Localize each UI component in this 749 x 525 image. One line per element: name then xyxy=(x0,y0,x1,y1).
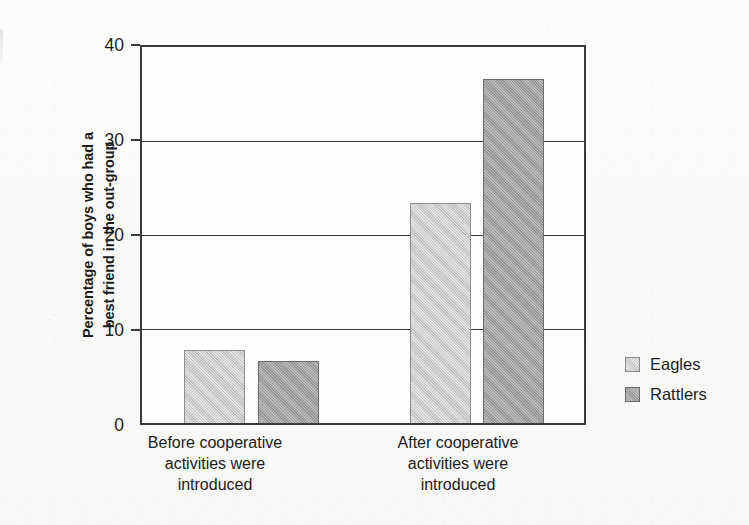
legend-label-rattlers: Rattlers xyxy=(650,385,707,404)
y-tick-mark-30 xyxy=(131,139,140,141)
legend-swatch-rattlers-icon xyxy=(625,387,640,402)
x-axis-label-group-1-line-1: Before cooperative xyxy=(95,432,335,453)
legend-label-eagles: Eagles xyxy=(650,355,700,374)
y-tick-label-40: 40 xyxy=(105,35,124,56)
y-tick-label-30: 30 xyxy=(105,130,124,151)
y-tick-mark-10 xyxy=(131,329,140,331)
y-axis-ticks: 40 30 20 10 0 xyxy=(0,45,140,425)
legend-item-eagles: Eagles xyxy=(625,355,707,374)
x-axis-label-group-2: After cooperative activities were introd… xyxy=(338,432,578,495)
chart-legend: Eagles Rattlers xyxy=(625,355,707,404)
y-tick-mark-20 xyxy=(131,234,140,236)
x-axis-label-group-2-line-1: After cooperative xyxy=(338,432,578,453)
y-tick-label-20: 20 xyxy=(105,225,124,246)
bar-rattlers-after xyxy=(483,79,544,423)
legend-swatch-eagles-icon xyxy=(625,357,640,372)
x-axis-label-group-1-line-2: activities were xyxy=(95,453,335,474)
legend-item-rattlers: Rattlers xyxy=(625,385,707,404)
bar-eagles-before xyxy=(184,350,245,423)
y-tick-label-10: 10 xyxy=(105,320,124,341)
x-axis-label-group-2-line-3: introduced xyxy=(338,474,578,495)
bar-rattlers-before xyxy=(258,361,319,423)
y-tick-mark-40 xyxy=(131,44,140,46)
x-axis-label-group-1-line-3: introduced xyxy=(95,474,335,495)
bar-eagles-after xyxy=(410,203,471,423)
bar-chart-figure: Percentage of boys who had a best friend… xyxy=(0,0,749,525)
plot-area xyxy=(140,45,586,425)
x-axis-label-group-1: Before cooperative activities were intro… xyxy=(95,432,335,495)
x-axis-label-group-2-line-2: activities were xyxy=(338,453,578,474)
